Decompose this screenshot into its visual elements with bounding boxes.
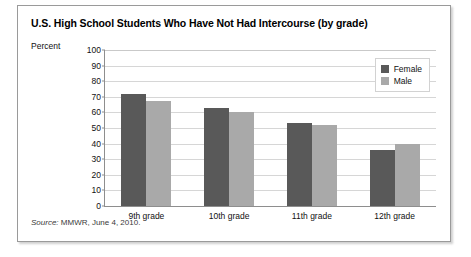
source-prefix: Source: — [31, 218, 59, 227]
x-tick-label: 11th grade — [292, 211, 332, 221]
bar-female-11th-grade — [287, 123, 312, 206]
legend-label-male: Male — [394, 76, 412, 86]
chart-card: U.S. High School Students Who Have Not H… — [17, 5, 451, 242]
bar-male-12th-grade — [395, 144, 420, 206]
bar-male-11th-grade — [312, 125, 337, 206]
bar-male-10th-grade — [229, 112, 254, 206]
y-tick-label: 70 — [92, 92, 101, 102]
y-tick-label: 0 — [96, 201, 101, 211]
bar-group — [121, 50, 171, 206]
y-axis-label: Percent — [31, 41, 60, 51]
legend-swatch-male-icon — [381, 77, 389, 85]
bar-female-9th-grade — [121, 94, 146, 206]
chart-title: U.S. High School Students Who Have Not H… — [31, 17, 368, 29]
legend-item-female: Female — [381, 63, 422, 75]
legend: Female Male — [375, 58, 430, 92]
plot-area: Percent 0102030405060708090100 9th grade… — [31, 37, 437, 209]
y-tick-label: 30 — [92, 154, 101, 164]
source-text: MMWR, June 4, 2010. — [59, 218, 141, 227]
y-tick-label: 40 — [92, 139, 101, 149]
bar-male-9th-grade — [146, 101, 171, 206]
y-tick-label: 10 — [92, 185, 101, 195]
x-tick-label: 12th grade — [374, 211, 415, 221]
bar-female-12th-grade — [370, 150, 395, 206]
y-tick-label: 80 — [92, 76, 101, 86]
legend-swatch-female-icon — [381, 65, 389, 73]
y-tick-label: 60 — [92, 107, 101, 117]
legend-label-female: Female — [394, 64, 422, 74]
y-tick-label: 20 — [92, 170, 101, 180]
y-tick-label: 50 — [92, 123, 101, 133]
legend-item-male: Male — [381, 75, 422, 87]
plot-frame: 0102030405060708090100 9th grade10th gra… — [104, 50, 436, 207]
source-note: Source: MMWR, June 4, 2010. — [31, 218, 140, 227]
bar-female-10th-grade — [204, 108, 229, 206]
bar-group — [287, 50, 337, 206]
y-tick-label: 90 — [92, 61, 101, 71]
x-tick-label: 10th grade — [209, 211, 250, 221]
bar-group — [204, 50, 254, 206]
y-tick-label: 100 — [87, 45, 101, 55]
